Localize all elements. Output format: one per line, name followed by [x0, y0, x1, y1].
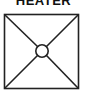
heater-symbol-icon	[0, 0, 87, 102]
center-circle	[36, 45, 48, 57]
